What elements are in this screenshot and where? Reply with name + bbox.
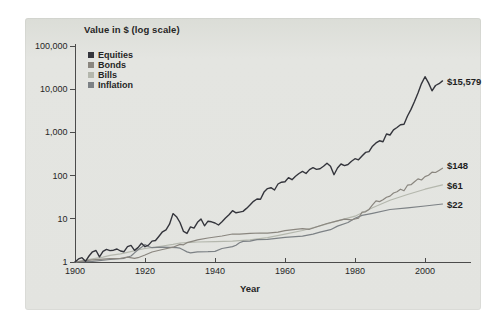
legend-swatch-bonds [88,62,94,68]
value-label-bonds: $148 [447,160,468,171]
x-axis-title: Year [75,283,425,294]
legend-item-bonds: Bonds [88,60,133,70]
legend-label-inflation: Inflation [98,80,133,90]
y-tick-label: 10,000 [40,84,68,94]
x-tick-label: 1940 [205,266,225,276]
value-label-equities: $15,579 [447,76,481,87]
legend-label-bills: Bills [98,70,117,80]
value-label-inflation: $22 [447,199,463,210]
legend-item-equities: Equities [88,50,133,60]
legend-item-bills: Bills [88,70,133,80]
legend-label-bonds: Bonds [98,60,126,70]
legend: Equities Bonds Bills Inflation [88,50,133,90]
legend-item-inflation: Inflation [88,80,133,90]
legend-swatch-equities [88,52,94,58]
legend-label-equities: Equities [98,50,133,60]
series-line-bonds [75,168,443,262]
y-tick-label: 100 [52,171,67,181]
y-tick-label: 10 [57,214,67,224]
value-label-bills: $61 [447,180,464,191]
chart-title: Value in $ (log scale) [84,24,180,35]
figure: 100,00010,0001,0001001011900192019401960… [0,0,499,322]
legend-swatch-inflation [88,82,94,88]
x-tick-label: 1920 [135,266,155,276]
y-tick-label: 1,000 [45,127,68,137]
x-tick-label: 1900 [65,266,85,276]
legend-swatch-bills [88,72,94,78]
chart-canvas: 100,00010,0001,0001001011900192019401960… [0,0,499,322]
x-tick-label: 1960 [275,266,295,276]
series-line-equities [75,77,443,262]
axes [75,44,471,262]
y-tick-label: 100,000 [35,41,68,51]
x-tick-label: 2000 [415,266,435,276]
x-tick-label: 1980 [345,266,365,276]
